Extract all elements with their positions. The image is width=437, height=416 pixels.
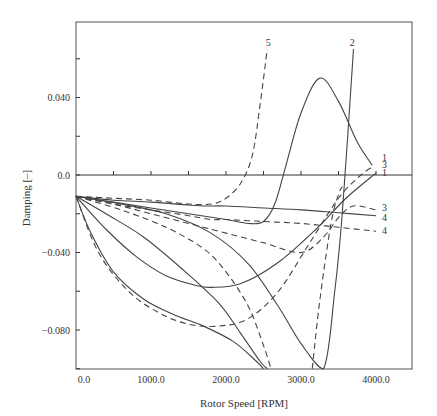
y-axis-label: Damping [–] [20,170,32,227]
series-line-unlabeled-solid [76,196,264,368]
series-line-1-solid [76,173,376,287]
plot-frame [76,22,412,369]
curve-label: 1 [382,167,387,178]
curve-label: 4 [382,225,387,236]
x-tick-label: 1000.0 [137,374,165,385]
series-line-4-solid [76,196,376,215]
x-tick-label: 2000.0 [212,374,240,385]
y-tick-label: −0.040 [42,247,70,258]
curve-label: 4 [382,212,387,223]
curve-label: 2 [350,37,355,48]
y-tick-label: 0.0 [58,170,71,181]
x-tick-label: 4000.0 [362,374,390,385]
y-tick-label: 0.040 [48,92,71,103]
x-axis-label: Rotor Speed [RPM] [200,397,288,409]
series-line-1-solid [76,78,372,224]
x-tick-label: 3000.0 [287,374,315,385]
y-tick-label: −0.080 [42,325,70,336]
x-tick-label: 0.0 [78,374,91,385]
damping-chart: 0.01000.02000.03000.04000.0 0.0400.0−0.0… [0,0,437,416]
curve-label: 5 [266,37,271,48]
series-line-5-dashed [76,49,267,205]
